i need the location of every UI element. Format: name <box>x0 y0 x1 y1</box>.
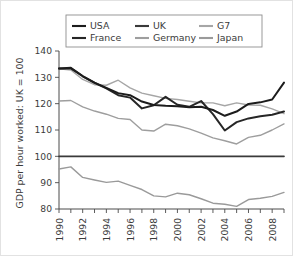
y-tick-label: 130 <box>34 72 52 83</box>
legend-label-g7: G7 <box>217 20 230 31</box>
legend-label-japan: Japan <box>216 32 243 43</box>
y-tick-label: 90 <box>40 177 52 188</box>
legend-label-germany: Germany <box>153 32 197 43</box>
y-tick-label: 110 <box>34 124 52 135</box>
x-tick-label: 1996 <box>125 218 136 242</box>
x-tick-label: 2006 <box>243 218 254 242</box>
x-tick-label: 1992 <box>77 218 88 241</box>
legend-label-uk: UK <box>153 20 167 31</box>
series-line-usa <box>59 68 284 116</box>
chart-canvas: GDP per hour worked: UK = 100 8090100110… <box>1 1 293 256</box>
y-axis-title-label: GDP per hour worked: UK = 100 <box>14 57 25 208</box>
x-tick-label: 2000 <box>172 218 183 242</box>
y-tick-label: 80 <box>40 203 52 214</box>
y-tick-label: 100 <box>34 151 52 162</box>
line-chart-svg: GDP per hour worked: UK = 100 8090100110… <box>1 1 293 256</box>
x-tick-label: 1994 <box>101 218 112 242</box>
x-axis-ticks: 1990199219941996199820002002200420062008 <box>54 209 284 241</box>
chart-figure: GDP per hour worked: UK = 100 8090100110… <box>0 0 293 256</box>
legend-label-usa: USA <box>90 20 110 31</box>
legend-label-france: France <box>90 32 121 43</box>
series-line-japan <box>59 167 284 207</box>
x-tick-label: 2004 <box>219 218 230 242</box>
data-series-group <box>59 68 284 207</box>
y-axis-title: GDP per hour worked: UK = 100 <box>14 57 25 208</box>
x-tick-label: 1990 <box>54 218 65 242</box>
y-axis-ticks: 8090100110120130140 <box>34 45 59 214</box>
x-tick-label: 1998 <box>148 218 159 242</box>
x-tick-label: 2002 <box>196 218 207 241</box>
y-tick-label: 140 <box>34 45 52 56</box>
x-tick-label: 2008 <box>267 218 278 242</box>
chart-legend: USAUKG7FranceGermanyJapan <box>66 15 262 47</box>
y-tick-label: 120 <box>34 98 52 109</box>
